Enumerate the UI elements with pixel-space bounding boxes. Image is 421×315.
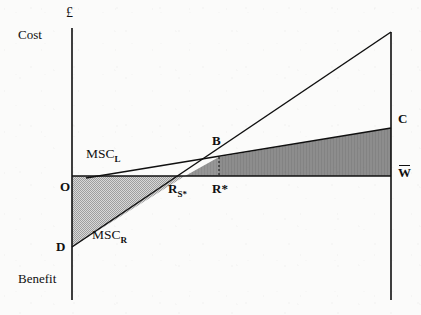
currency-symbol: £ <box>66 6 73 20</box>
point-label-social-optimum: RS* <box>168 182 187 199</box>
axis-label-cost: Cost <box>18 28 42 41</box>
curve-label-msc-l: MSCL <box>86 147 121 164</box>
point-label-c: C <box>398 112 407 125</box>
point-label-origin: O <box>60 180 70 193</box>
msc-r-subscript: R <box>121 235 128 245</box>
overbar <box>399 165 410 166</box>
point-label-b: B <box>212 134 221 147</box>
diagram-canvas: Cost £ Benefit O B C D RS* R* W MSCL MSC… <box>0 0 421 315</box>
point-label-d: D <box>56 240 65 253</box>
social-optimum-base: R <box>168 181 177 196</box>
axis-label-benefit: Benefit <box>18 272 56 285</box>
point-label-private-optimum: R* <box>212 182 228 195</box>
curve-label-msc-r: MSCR <box>92 228 127 245</box>
w-bar-text: W <box>398 165 411 180</box>
social-optimum-subscript: S* <box>177 189 187 199</box>
right-boundary-label: W <box>398 166 411 179</box>
diagram-svg <box>0 0 421 315</box>
msc-l-base: MSC <box>86 146 115 161</box>
msc-r-base: MSC <box>92 227 121 242</box>
msc-l-subscript: L <box>115 154 121 164</box>
